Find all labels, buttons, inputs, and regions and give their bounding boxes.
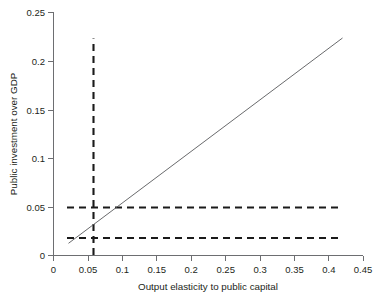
x-tick-label: 0.35: [285, 264, 304, 275]
series-optimal-public-investment: [69, 38, 343, 243]
x-tick-label: 0.05: [79, 264, 98, 275]
y-tick-label: 0.2: [32, 56, 45, 67]
x-tick-label: 0.4: [322, 264, 335, 275]
y-axis-title: Public investment over GDP: [8, 72, 19, 195]
x-tick-label: 0.15: [148, 264, 167, 275]
y-tick-label: 0: [40, 250, 45, 261]
chart-figure: 0.25 0.2 0.15 0.1 0.05 0 0 0.05 0.1 0.15…: [0, 0, 374, 297]
x-axis-tick-labels: 0 0.05 0.1 0.15 0.2 0.25 0.3 0.35 0.4 0.…: [51, 264, 372, 275]
x-axis-title: Output elasticity to public capital: [138, 281, 278, 292]
y-tick-label: 0.15: [27, 105, 46, 116]
x-tick-label: 0.3: [253, 264, 266, 275]
x-tick-label: 0: [51, 264, 56, 275]
x-tick-label: 0.2: [185, 264, 198, 275]
y-tick-label: 0.05: [27, 202, 46, 213]
x-tick-label: 0.1: [116, 264, 129, 275]
y-axis-tick-labels: 0.25 0.2 0.15 0.1 0.05 0: [27, 7, 46, 261]
chart-plot-area: 0.25 0.2 0.15 0.1 0.05 0 0 0.05 0.1 0.15…: [0, 0, 374, 297]
x-tick-label: 0.45: [354, 264, 373, 275]
y-tick-label: 0.1: [32, 153, 45, 164]
y-tick-label: 0.25: [27, 7, 46, 18]
y-axis-ticks: [48, 13, 53, 256]
x-axis-ticks: [54, 256, 364, 261]
x-tick-label: 0.25: [216, 264, 235, 275]
